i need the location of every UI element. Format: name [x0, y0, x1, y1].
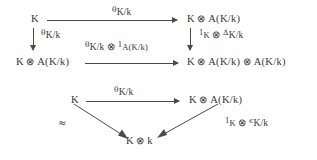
- node-text-left: K: [126, 135, 134, 146]
- triangle-arrow-right-diagonal: [0, 0, 317, 160]
- tensor-icon: ⊗: [134, 135, 147, 146]
- tensor-icon: ⊗: [236, 118, 249, 128]
- commutative-diagram-figure: K θK/k K⊗A(K/k) θK/k 1K⊗ΔK/k K⊗A(K/k) θK…: [0, 0, 317, 160]
- identity-subscript: K: [229, 118, 235, 128]
- identity-symbol: 1: [225, 115, 229, 125]
- triangle-arrow-right-diagonal-label: 1K⊗ϵK/k: [225, 119, 268, 129]
- node-text-right: k: [147, 135, 153, 146]
- epsilon-symbol: ϵ: [249, 116, 253, 125]
- triangle-node-bottom: K⊗k: [126, 136, 153, 147]
- epsilon-subscript: K/k: [253, 118, 268, 128]
